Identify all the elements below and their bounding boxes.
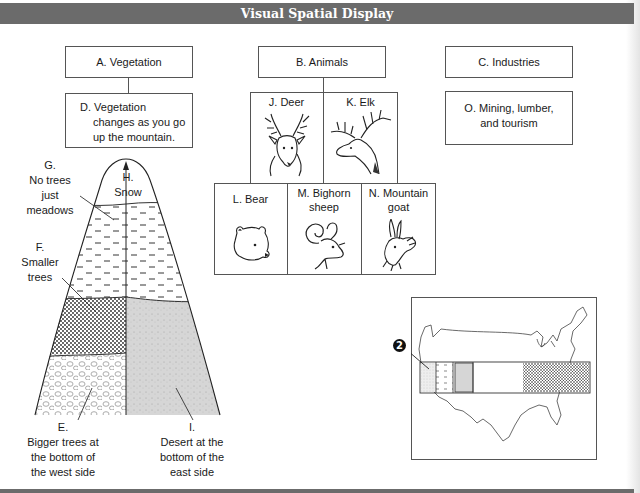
- vegetation-box: A. Vegetation: [65, 46, 193, 78]
- desert-zone: [126, 297, 230, 420]
- industries-detail-box: O. Mining, lumber, and tourism: [445, 91, 573, 145]
- page-edge-shadow: [626, 0, 640, 493]
- connector-line: [323, 78, 324, 92]
- callout-number-badge: 2: [393, 339, 406, 352]
- industries-box: C. Industries: [445, 46, 573, 78]
- label-g-line-2: just: [12, 188, 88, 203]
- industries-detail-line-2: and tourism: [446, 116, 572, 131]
- goat-label-line-2: goat: [361, 200, 436, 214]
- elk-head-icon: [327, 108, 395, 176]
- page-title: Visual Spatial Display: [241, 6, 394, 21]
- bigger-trees-zone: [30, 353, 126, 420]
- label-h-line-1: Snow: [108, 185, 148, 200]
- label-e-letter: E.: [14, 420, 112, 435]
- label-f-line-2: trees: [14, 270, 66, 285]
- mountain-goat-head-icon: [377, 219, 421, 271]
- bighorn-label-line-1: M. Bighorn: [287, 186, 361, 200]
- label-f-smaller-trees: F. Smaller trees: [14, 240, 66, 285]
- animal-cell-elk: K. Elk: [323, 92, 398, 183]
- animal-cell-bighorn-sheep: M. Bighorn sheep: [287, 183, 361, 275]
- map-band-desert: [455, 363, 473, 392]
- label-i-line-1: Desert at the: [146, 435, 238, 450]
- vegetation-detail-line-3: up the mountain.: [80, 130, 192, 145]
- label-g-line-3: meadows: [12, 203, 88, 218]
- label-f-line-1: Smaller: [14, 255, 66, 270]
- animal-cell-deer: J. Deer: [250, 92, 323, 183]
- map-band-coast: [421, 363, 436, 392]
- label-i-desert: I. Desert at the bottom of the east side: [146, 420, 238, 480]
- title-bar: Visual Spatial Display: [0, 3, 634, 24]
- bear-head-icon: [229, 223, 273, 263]
- vegetation-label: A. Vegetation: [96, 55, 161, 70]
- label-e-line-1: Bigger trees at: [14, 435, 112, 450]
- label-g-meadows: G. No trees just meadows: [12, 158, 88, 218]
- label-e-line-2: the bottom of: [14, 450, 112, 465]
- callout-number: 2: [396, 340, 403, 351]
- bighorn-label-line-2: sheep: [287, 200, 361, 214]
- map-band-meadows: [436, 363, 453, 392]
- deer-head-icon: [257, 110, 317, 178]
- label-e-line-3: the west side: [14, 465, 112, 480]
- us-map: [411, 297, 597, 460]
- label-i-letter: I.: [146, 420, 238, 435]
- bottom-bar: [0, 489, 634, 493]
- animal-cell-mountain-goat: N. Mountain goat: [361, 183, 436, 275]
- animals-box: B. Animals: [258, 46, 386, 78]
- label-g-line-1: No trees: [12, 173, 88, 188]
- deer-label: J. Deer: [250, 95, 323, 109]
- label-f-letter: F.: [14, 240, 66, 255]
- label-i-line-2: bottom of the: [146, 450, 238, 465]
- industries-label: C. Industries: [478, 55, 540, 70]
- label-h-snow: H. Snow: [108, 170, 148, 200]
- label-i-line-3: east side: [146, 465, 238, 480]
- label-e-bigger-trees: E. Bigger trees at the bottom of the wes…: [14, 420, 112, 480]
- animals-label: B. Animals: [296, 55, 348, 70]
- bighorn-sheep-head-icon: [299, 219, 349, 271]
- goat-label-line-1: N. Mountain: [361, 186, 436, 200]
- label-h-letter: H.: [108, 170, 148, 185]
- elk-label: K. Elk: [323, 95, 398, 109]
- vegetation-detail-line-2: changes as you go: [80, 115, 192, 130]
- connector-line: [128, 78, 129, 93]
- industries-detail-line-1: O. Mining, lumber,: [446, 101, 572, 116]
- map-band-forest: [523, 363, 589, 392]
- smaller-trees-zone: [30, 297, 126, 358]
- vegetation-detail-box: D. Vegetation changes as you go up the m…: [65, 93, 193, 148]
- label-g-letter: G.: [12, 158, 88, 173]
- vegetation-detail-line-1: D. Vegetation: [80, 100, 192, 115]
